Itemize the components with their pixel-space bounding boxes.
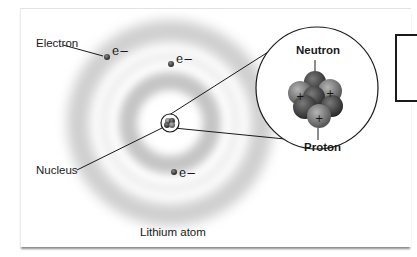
proton-label: Proton [304,141,341,153]
svg-text:+: + [296,91,304,102]
nucleus-small [161,114,179,132]
nucleus-label: Nucleus [36,164,78,176]
electron-dot-2 [168,61,174,67]
electron-label: Electron [36,37,78,49]
neutron-label: Neutron [296,44,340,56]
side-info-box [395,34,417,102]
electron-symbol-2: e− [176,52,193,66]
svg-text:+: + [315,113,323,124]
electron-symbol-1: e− [112,44,129,58]
diagram-caption: Lithium atom [140,226,206,238]
electron-dot-3 [171,169,177,175]
electron-symbol-3: e− [179,166,196,180]
electron-dot-1 [104,54,110,60]
svg-text:+: + [326,88,334,99]
